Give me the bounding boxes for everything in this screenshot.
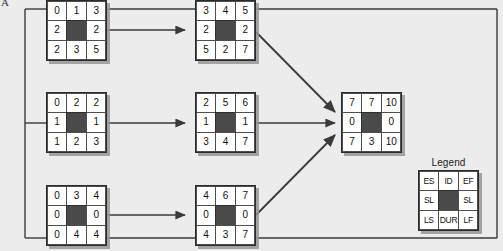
legend-cell-center: [438, 190, 459, 211]
node-b-lf: 7: [235, 40, 256, 61]
node-b-center: [215, 20, 236, 41]
node-finish-sl-left: 0: [342, 112, 363, 133]
node-e-es: 0: [47, 186, 68, 207]
node-e-sl-left: 0: [47, 205, 68, 226]
arrow-node-f-to-finish: [256, 135, 335, 215]
node-d-ls: 3: [196, 132, 217, 153]
node-d-lf: 7: [235, 132, 256, 153]
node-b[interactable]: 3 4 5 2 2 5 2 7: [195, 0, 256, 61]
node-d[interactable]: 2 5 6 1 1 3 4 7: [195, 92, 256, 153]
node-b-dur: 2: [215, 40, 236, 61]
legend-cell-lf: LF: [458, 210, 479, 231]
node-c-es: 0: [47, 93, 68, 114]
node-finish-es: 7: [342, 93, 363, 114]
node-a-id: 1: [66, 1, 87, 22]
node-finish-ef: 10: [381, 93, 402, 114]
node-d-es: 2: [196, 93, 217, 114]
node-f-ef: 7: [235, 186, 256, 207]
node-e[interactable]: 0 3 4 0 0 0 4 4: [46, 185, 107, 246]
node-finish-center: [361, 112, 382, 133]
node-e-dur: 4: [66, 225, 87, 246]
node-d-id: 5: [215, 93, 236, 114]
node-d-dur: 4: [215, 132, 236, 153]
legend-cell-es: ES: [419, 171, 440, 192]
node-f-center: [215, 205, 236, 226]
node-b-ef: 5: [235, 1, 256, 22]
figure-corner-label: A: [1, 0, 9, 8]
node-d-ef: 6: [235, 93, 256, 114]
node-f-id: 6: [215, 186, 236, 207]
node-c-sl-right: 1: [86, 112, 107, 133]
node-finish[interactable]: 7 7 10 0 0 7 3 10: [341, 92, 402, 153]
node-finish-sl-right: 0: [381, 112, 402, 133]
node-b-sl-left: 2: [196, 20, 217, 41]
node-c[interactable]: 0 2 2 1 1 1 2 3: [46, 92, 107, 153]
legend-cell-ef: EF: [458, 171, 479, 192]
node-f-dur: 3: [215, 225, 236, 246]
node-a-ls: 2: [47, 40, 68, 61]
node-e-ef: 4: [86, 186, 107, 207]
node-a-es: 0: [47, 1, 68, 22]
node-e-sl-right: 0: [86, 205, 107, 226]
node-f-es: 4: [196, 186, 217, 207]
node-c-ls: 1: [47, 132, 68, 153]
node-e-center: [66, 205, 87, 226]
node-f[interactable]: 4 6 7 0 0 4 3 7: [195, 185, 256, 246]
node-e-id: 3: [66, 186, 87, 207]
node-finish-lf: 10: [381, 132, 402, 153]
node-a[interactable]: 0 1 3 2 2 2 3 5: [46, 0, 107, 61]
node-b-sl-right: 2: [235, 20, 256, 41]
node-d-sl-left: 1: [196, 112, 217, 133]
legend-cell-sl-right: SL: [458, 190, 479, 211]
legend-cell-id: ID: [438, 171, 459, 192]
node-d-sl-right: 1: [235, 112, 256, 133]
node-finish-id: 7: [361, 93, 382, 114]
node-c-ef: 2: [86, 93, 107, 114]
node-c-lf: 3: [86, 132, 107, 153]
node-a-sl-right: 2: [86, 20, 107, 41]
node-b-ls: 5: [196, 40, 217, 61]
node-c-center: [66, 112, 87, 133]
node-a-center: [66, 20, 87, 41]
node-d-center: [215, 112, 236, 133]
node-f-lf: 7: [235, 225, 256, 246]
node-c-dur: 2: [66, 132, 87, 153]
node-a-ef: 3: [86, 1, 107, 22]
node-a-sl-left: 2: [47, 20, 68, 41]
legend-cell-dur: DUR: [438, 210, 459, 231]
node-f-ls: 4: [196, 225, 217, 246]
node-e-lf: 4: [86, 225, 107, 246]
legend-box: ES ID EF SL SL LS DUR LF: [418, 170, 479, 231]
node-b-id: 4: [215, 1, 236, 22]
node-finish-dur: 3: [361, 132, 382, 153]
node-e-ls: 0: [47, 225, 68, 246]
node-f-sl-left: 0: [196, 205, 217, 226]
node-c-sl-left: 1: [47, 112, 68, 133]
legend-cell-sl-left: SL: [419, 190, 440, 211]
node-c-id: 2: [66, 93, 87, 114]
node-a-lf: 5: [86, 40, 107, 61]
node-b-es: 3: [196, 1, 217, 22]
legend-title: Legend: [418, 157, 479, 168]
node-finish-ls: 7: [342, 132, 363, 153]
network-diagram-canvas: A 0 1 3 2 2 2: [0, 0, 503, 251]
node-f-sl-right: 0: [235, 205, 256, 226]
legend: Legend ES ID EF SL SL LS DUR LF: [418, 157, 479, 231]
legend-cell-ls: LS: [419, 210, 440, 231]
arrow-node-b-to-finish: [256, 32, 335, 112]
node-a-dur: 3: [66, 40, 87, 61]
